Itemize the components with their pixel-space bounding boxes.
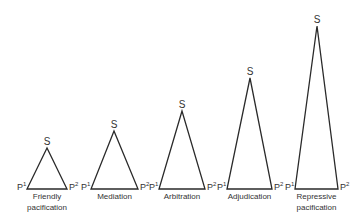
party-2-label: P2 [207,181,217,192]
party-1-label: P1 [217,181,227,192]
caption-line-1: Arbitration [164,192,200,201]
party-1-label: P1 [81,181,91,192]
triangle-diagram: SP1P2FriendlypacificationSP1P2MediationS… [0,0,364,223]
triangle-shape [295,26,338,189]
triangle-group: SP1P2Arbitration [149,99,217,201]
triangle-group: SP1P2Mediation [81,119,150,201]
apex-label: S [179,99,186,110]
party-2-label: P2 [340,181,350,192]
triangle-shape [27,148,67,189]
triangle-group: SP1P2Repressivepacification [285,14,350,212]
apex-label: S [314,14,321,25]
triangle-shape [227,78,272,189]
apex-label: S [111,119,118,130]
party-2-label: P2 [274,181,284,192]
triangle-group: SP1P2Adjudication [217,66,284,201]
apex-label: S [44,136,51,147]
triangle-group: SP1P2Friendlypacification [17,136,79,212]
caption-line-1: Repressive [296,192,337,201]
party-1-label: P1 [149,181,159,192]
party-1-label: P1 [17,181,27,192]
caption-line-1: Mediation [97,192,132,201]
party-1-label: P1 [285,181,295,192]
triangle-shape [91,131,138,189]
caption-line-2: pacification [27,203,67,212]
caption-line-1: Friendly [33,192,61,201]
caption-line-2: pacification [296,203,336,212]
triangle-shape [159,111,205,189]
apex-label: S [247,66,254,77]
caption-line-1: Adjudication [228,192,272,201]
party-2-label: P2 [69,181,79,192]
